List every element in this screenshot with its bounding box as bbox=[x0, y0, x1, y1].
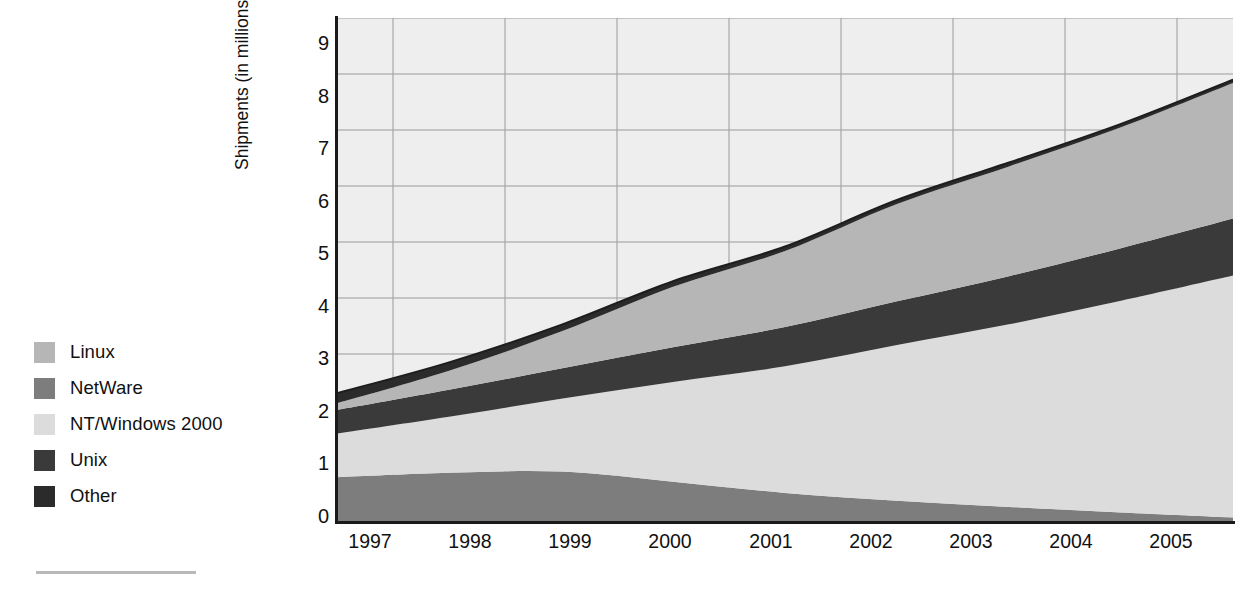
y-tick-3: 3 bbox=[303, 348, 329, 368]
x-tick-1998: 1998 bbox=[430, 532, 510, 552]
y-tick-2: 2 bbox=[303, 401, 329, 421]
y-tick-9: 9 bbox=[303, 33, 329, 53]
y-tick-7: 7 bbox=[303, 138, 329, 158]
x-axis-line bbox=[335, 521, 1235, 524]
x-tick-2000: 2000 bbox=[630, 532, 710, 552]
y-axis-line bbox=[335, 16, 338, 524]
y-axis-label: Shipments (in millions) bbox=[232, 0, 253, 170]
stacked-area-chart: Shipments (in millions) 9 8 7 6 5 4 3 2 … bbox=[0, 0, 1260, 589]
series-areas bbox=[337, 80, 1233, 522]
area-chart-svg bbox=[337, 18, 1233, 522]
y-tick-5: 5 bbox=[303, 243, 329, 263]
x-tick-2005: 2005 bbox=[1131, 532, 1211, 552]
x-tick-2001: 2001 bbox=[731, 532, 811, 552]
y-tick-4: 4 bbox=[303, 296, 329, 316]
y-tick-1: 1 bbox=[303, 453, 329, 473]
y-tick-6: 6 bbox=[303, 191, 329, 211]
x-tick-2003: 2003 bbox=[931, 532, 1011, 552]
x-tick-1997: 1997 bbox=[330, 532, 410, 552]
x-tick-2002: 2002 bbox=[831, 532, 911, 552]
y-tick-8: 8 bbox=[303, 86, 329, 106]
plot-area bbox=[337, 18, 1233, 522]
x-tick-2004: 2004 bbox=[1031, 532, 1111, 552]
x-tick-1999: 1999 bbox=[530, 532, 610, 552]
y-tick-0: 0 bbox=[303, 506, 329, 526]
